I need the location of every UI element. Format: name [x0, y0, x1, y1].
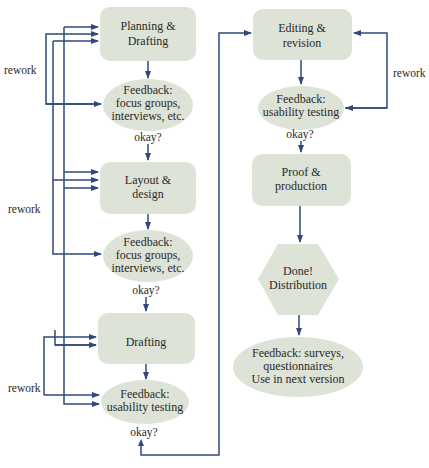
node-feedback1-line2: focus groups,: [116, 96, 181, 110]
node-feedback4: Feedback: usability testing: [258, 86, 344, 130]
rework-loops-left: [44, 27, 101, 404]
node-done-line2: Distribution: [269, 278, 327, 292]
node-feedback2-line2: focus groups,: [116, 248, 181, 262]
okay-label-1: okay?: [134, 131, 161, 144]
node-feedback4-line1: Feedback:: [276, 92, 325, 106]
node-feedback3-line1: Feedback:: [120, 387, 169, 401]
node-layout-line1: Layout &: [125, 173, 172, 187]
node-proof: Proof & production: [252, 154, 351, 206]
node-planning: Planning & Drafting: [100, 7, 196, 61]
rework-label-2: rework: [8, 203, 41, 215]
node-planning-line1: Planning &: [120, 19, 176, 33]
okay-label-3: okay?: [130, 426, 157, 439]
node-proof-line1: Proof &: [282, 165, 322, 179]
node-feedback2-line3: interviews, etc.: [112, 261, 185, 275]
node-feedback5-line1: Feedback: surveys,: [252, 346, 344, 360]
node-feedback5-line3: Use in next version: [252, 372, 345, 386]
node-feedback5: Feedback: surveys, questionnaires Use in…: [233, 337, 363, 397]
node-feedback3: Feedback: usability testing: [101, 380, 189, 424]
node-feedback1: Feedback: focus groups, interviews, etc.: [103, 79, 193, 131]
rework-label-1: rework: [4, 64, 37, 76]
node-feedback1-line3: interviews, etc.: [112, 109, 185, 123]
flowchart-canvas: Planning & Drafting Feedback: focus grou…: [0, 0, 429, 468]
rework-label-3: rework: [8, 382, 41, 394]
node-editing-line1: Editing &: [278, 21, 326, 35]
node-feedback1-line1: Feedback:: [123, 83, 172, 97]
node-feedback3-line2: usability testing: [107, 400, 183, 414]
node-feedback2-line1: Feedback:: [123, 235, 172, 249]
node-layout: Layout & design: [100, 162, 196, 214]
arrowhead-up-icon: [138, 439, 144, 446]
node-done: Done! Distribution: [258, 244, 339, 315]
node-feedback2: Feedback: focus groups, interviews, etc.: [103, 230, 193, 282]
node-done-line1: Done!: [283, 264, 313, 278]
node-drafting-line1: Drafting: [126, 335, 167, 349]
node-editing-line2: revision: [283, 36, 322, 50]
okay-label-4: okay?: [286, 128, 313, 141]
node-drafting: Drafting: [98, 313, 195, 364]
rework-label-4: rework: [393, 67, 426, 79]
node-layout-line2: design: [132, 187, 163, 201]
node-feedback5-line2: questionnaires: [263, 359, 333, 373]
node-proof-line2: production: [275, 179, 327, 193]
node-planning-line2: Drafting: [128, 34, 169, 48]
node-editing: Editing & revision: [253, 9, 352, 60]
node-feedback4-line2: usability testing: [263, 105, 339, 119]
okay-label-2: okay?: [132, 284, 159, 297]
